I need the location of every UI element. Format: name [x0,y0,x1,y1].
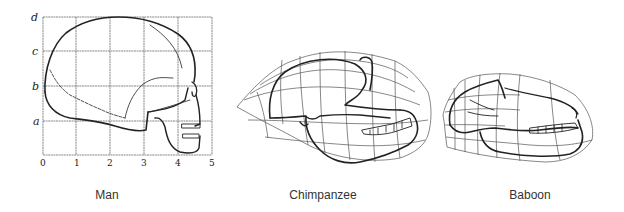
svg-text:3: 3 [141,158,147,168]
svg-text:d: d [31,11,38,24]
svg-text:4: 4 [175,158,181,168]
svg-text:1: 1 [74,158,80,168]
chimpanzee-skull-outline [270,57,418,163]
svg-text:0: 0 [40,158,46,168]
svg-text:5: 5 [209,158,215,168]
man-y-labels: d c b a [31,11,40,128]
caption-man: Man [95,188,118,202]
baboon-skull-outline [450,80,583,156]
baboon-deformed-grid [443,73,593,162]
man-x-labels: 0 1 2 3 4 5 [40,158,215,168]
caption-chimpanzee: Chimpanzee [289,188,356,202]
skull-transformation-figure: d c b a 0 1 2 3 4 5 [0,0,624,212]
baboon-panel [443,73,593,162]
man-panel: d c b a 0 1 2 3 4 5 [31,11,215,168]
svg-text:2: 2 [107,158,113,168]
svg-text:b: b [32,80,39,93]
chimpanzee-panel [237,51,431,163]
man-skull-outline [45,17,200,153]
svg-text:c: c [32,45,38,58]
caption-baboon: Baboon [509,188,550,202]
chimpanzee-deformed-grid [237,51,431,162]
svg-text:a: a [33,115,40,128]
